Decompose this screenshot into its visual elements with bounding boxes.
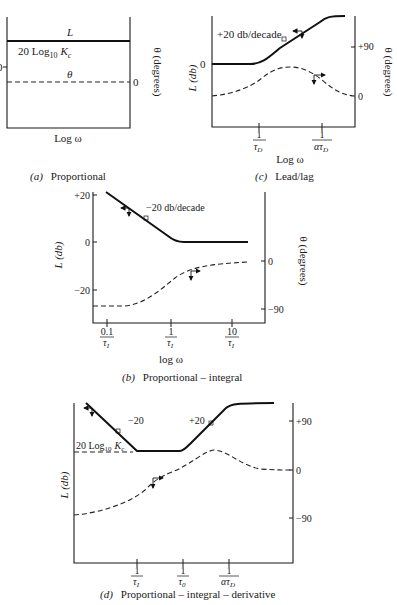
svg-text:−20: −20 xyxy=(74,285,90,296)
panel-d-slope-neg: −20 xyxy=(128,415,144,426)
panel-d-gain-label: 20 Log10Kc xyxy=(76,440,125,453)
panel-c-ylabel-right: θ (degrees) xyxy=(382,48,395,97)
bode-figure: 0 L 20 Log10Kc θ 0 θ (degrees) Log ω (a)… xyxy=(0,0,397,605)
panel-b-theta-curve xyxy=(93,262,248,306)
svg-text:1: 1 xyxy=(257,129,262,140)
panel-c-xtick-2: ατD xyxy=(314,141,328,154)
svg-text:+20: +20 xyxy=(74,190,90,201)
panel-d-pid: L (db) −20 +20 20 Log10Kc +90 0 −90 1 τI… xyxy=(58,403,312,601)
panel-b-xlabel: log ω xyxy=(159,353,183,365)
svg-text:+90: +90 xyxy=(296,416,312,427)
svg-text:τI: τI xyxy=(167,337,174,350)
panel-c-ylabel-left: L (db) xyxy=(186,64,199,92)
panel-c-slope-label: +20 db/decade xyxy=(217,28,282,40)
panel-b-proportional-integral: +20 0 −20 L (db) −20 db/decade 0 −90 θ (… xyxy=(52,190,310,384)
panel-b-ylabel-right: θ (degrees) xyxy=(297,237,310,286)
panel-b-L-curve xyxy=(106,192,248,242)
svg-text:0: 0 xyxy=(268,256,273,267)
svg-text:0.1: 0.1 xyxy=(101,326,114,337)
svg-text:0: 0 xyxy=(85,237,90,248)
panel-d-theta-curve xyxy=(74,450,293,515)
svg-text:−90: −90 xyxy=(268,304,284,315)
panel-c-lead-lag: 0 L (db) +20 db/decade +90 0 θ (degrees)… xyxy=(186,16,395,183)
panel-d-axes xyxy=(74,403,293,563)
panel-a-ylabel-right: θ (degrees) xyxy=(151,48,164,97)
panel-c-xlabel: Log ω xyxy=(276,153,304,165)
svg-text:1: 1 xyxy=(320,129,325,140)
panel-d-ylabel-left: L (db) xyxy=(58,471,71,499)
panel-b-ylabel-left: L (db) xyxy=(52,241,65,269)
panel-c-right-tick-0: 0 xyxy=(358,91,363,102)
panel-a-theta-label: θ xyxy=(67,68,73,80)
panel-b-slope-label: −20 db/decade xyxy=(146,202,205,213)
panel-a-xlabel: Log ω xyxy=(54,132,82,144)
panel-a-gain-label: 20 Log10Kc xyxy=(18,45,72,60)
panel-c-caption: (c)Lead/lag xyxy=(255,170,314,183)
svg-text:1: 1 xyxy=(169,326,174,337)
panel-d-slope-pos: +20 xyxy=(189,415,205,426)
panel-c-left-tick: 0 xyxy=(200,58,206,70)
svg-text:0: 0 xyxy=(296,465,301,476)
panel-a-L-label: L xyxy=(66,26,73,38)
panel-c-L-curve xyxy=(212,16,345,64)
svg-text:1: 1 xyxy=(135,565,140,576)
panel-d-caption: (d)Proportional – integral – derivative xyxy=(100,588,276,601)
svg-text:τI: τI xyxy=(228,337,235,350)
svg-text:−90: −90 xyxy=(296,513,312,524)
svg-text:1: 1 xyxy=(227,565,232,576)
panel-c-theta-curve xyxy=(212,67,355,96)
panel-b-caption: (b)Proportional – integral xyxy=(122,371,242,384)
svg-text:1: 1 xyxy=(181,565,186,576)
panel-c-xtick-1: τD xyxy=(254,141,263,154)
panel-a-caption: (a)Proportional xyxy=(30,170,106,183)
panel-a-proportional: 0 L 20 Log10Kc θ 0 θ (degrees) Log ω (a)… xyxy=(0,17,164,183)
svg-text:10: 10 xyxy=(227,326,237,337)
panel-c-right-tick-90: +90 xyxy=(358,41,374,52)
panel-a-left-tick: 0 xyxy=(0,61,3,73)
panel-a-right-tick: 0 xyxy=(133,76,139,88)
svg-text:τI: τI xyxy=(103,337,110,350)
